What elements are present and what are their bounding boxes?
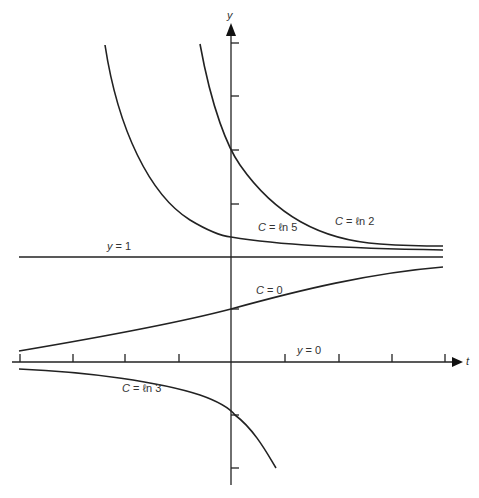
label-y-equals-1: y = 1 <box>107 240 131 252</box>
t-axis-arrow-icon <box>452 357 463 367</box>
y-axis-arrow-icon <box>226 23 236 36</box>
t-axis-label: t <box>466 355 469 367</box>
y-axis-ticks <box>231 43 239 468</box>
curve-c-ln2 <box>200 44 443 246</box>
y-axis-label: y <box>227 9 233 21</box>
label-c-ln5: C = ℓn 5 <box>258 221 297 233</box>
label-c-ln2: C = ℓn 2 <box>335 215 374 227</box>
t-axis-ticks <box>20 354 445 362</box>
label-y-equals-0: y = 0 <box>297 344 321 356</box>
label-c-ln3: C = ℓn 3 <box>122 382 161 394</box>
solution-curves-plot <box>0 0 479 498</box>
label-c-0: C = 0 <box>256 284 283 296</box>
curve-c-ln5 <box>105 45 443 250</box>
